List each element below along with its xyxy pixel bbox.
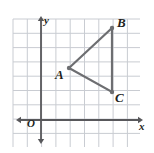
triangle-outline <box>69 28 112 92</box>
origin-label: O <box>27 118 35 129</box>
vertex-label-c: C <box>115 91 124 104</box>
axes <box>16 16 143 144</box>
x-axis-arrow-left-icon <box>16 117 21 123</box>
vertex-dot-c <box>110 90 114 94</box>
y-axis-label: y <box>44 15 49 26</box>
x-axis-label: x <box>139 121 145 132</box>
triangle-shape <box>67 26 114 94</box>
coordinate-plane-figure: A B C x y O <box>0 0 154 153</box>
geometry-diagram-canvas <box>0 0 154 153</box>
vertex-label-b: B <box>117 16 126 29</box>
vertex-dots <box>67 26 114 94</box>
vertex-label-a: A <box>55 68 64 81</box>
y-axis-arrow-down-icon <box>38 139 44 144</box>
vertex-dot-b <box>110 26 114 30</box>
vertex-dot-a <box>67 66 71 70</box>
